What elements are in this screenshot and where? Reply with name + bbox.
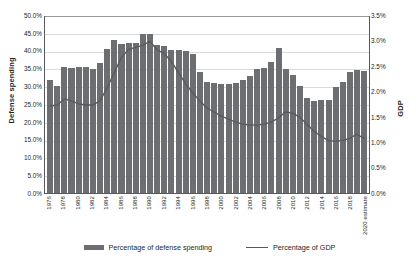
x-axis-tick-label: 1988 [132, 196, 138, 210]
x-axis-tick-label: 1980 [75, 196, 81, 210]
x-axis-tick-label: 1976 [46, 196, 52, 210]
x-axis-tick-slot [53, 196, 59, 238]
legend-line-swatch-icon [246, 247, 268, 248]
y-axis-right-tick: 2.5% [371, 64, 397, 70]
x-axis-tick-label: 2020 estimate [362, 196, 368, 235]
x-axis-tick-slot: 2004 [247, 196, 253, 238]
y-axis-left-tick: 15.0% [8, 137, 42, 143]
x-axis-tick-slot [197, 196, 203, 238]
y-axis-right-tick: 3.0% [371, 38, 397, 44]
y-axis-right-tick: 1.0% [371, 140, 397, 146]
x-axis-tick-slot: 2012 [304, 196, 310, 238]
y-axis-right-tick: 0.5% [371, 165, 397, 171]
x-axis-tick-label: 2008 [276, 196, 282, 210]
x-axis-tick-label: 2012 [304, 196, 310, 210]
x-axis-tick-slot: 1986 [118, 196, 124, 238]
x-axis-tick-labels: 1976197819801982198419861988199019921994… [44, 196, 370, 238]
x-axis-tick-label: 2010 [290, 196, 296, 210]
y-axis-left-tick: 30.0% [8, 84, 42, 90]
line-series-percentage-of-gdp [45, 16, 369, 193]
x-axis-tick-label: 2000 [218, 196, 224, 210]
x-axis-tick-slot [68, 196, 74, 238]
x-axis-tick-slot [311, 196, 317, 238]
y-axis-left-tick: 5.0% [8, 173, 42, 179]
x-axis-tick-slot: 1994 [175, 196, 181, 238]
x-axis-tick-label: 2004 [247, 196, 253, 210]
x-axis-tick-slot [96, 196, 102, 238]
x-axis-tick-slot: 2018 [347, 196, 353, 238]
legend-label: Percentage of GDP [273, 243, 335, 252]
legend-label: Percentage of defense spending [109, 243, 213, 252]
x-axis-tick-slot: 1996 [189, 196, 195, 238]
x-axis-tick-slot: 2006 [261, 196, 267, 238]
y-axis-left-tick: 0.0% [8, 191, 42, 197]
x-axis-tick-slot: 2010 [290, 196, 296, 238]
x-axis-tick-label: 1984 [103, 196, 109, 210]
chart-container: Defense spending GDP 0.0%5.0%10.0%15.0%2… [0, 0, 419, 265]
x-axis-tick-slot: 1998 [204, 196, 210, 238]
x-axis-tick-label: 2016 [333, 196, 339, 210]
x-axis-tick-slot: 2000 [218, 196, 224, 238]
y-axis-left-tick: 20.0% [8, 120, 42, 126]
legend-bar-swatch-icon [84, 245, 104, 250]
x-axis-tick-slot: 2016 [333, 196, 339, 238]
x-axis-tick-slot [82, 196, 88, 238]
x-axis-tick-slot [168, 196, 174, 238]
x-axis-tick-label: 1978 [60, 196, 66, 210]
y-axis-left-tick: 35.0% [8, 66, 42, 72]
legend-item[interactable]: Percentage of GDP [246, 243, 335, 252]
x-axis-tick-slot: 1984 [103, 196, 109, 238]
x-axis-tick-slot: 1992 [161, 196, 167, 238]
x-axis-tick-label: 2014 [319, 196, 325, 210]
y-axis-right-tick: 0.0% [371, 191, 397, 197]
x-axis-tick-slot [326, 196, 332, 238]
x-axis-tick-slot [225, 196, 231, 238]
x-axis-tick-slot [125, 196, 131, 238]
x-axis-tick-slot [182, 196, 188, 238]
x-axis-tick-slot: 1976 [46, 196, 52, 238]
legend-item[interactable]: Percentage of defense spending [84, 243, 213, 252]
y-axis-left-tick: 25.0% [8, 102, 42, 108]
x-axis-tick-slot [283, 196, 289, 238]
x-axis-tick-label: 1986 [118, 196, 124, 210]
x-axis-tick-slot: 1980 [75, 196, 81, 238]
x-axis-tick-label: 1990 [146, 196, 152, 210]
y-axis-left-tick: 50.0% [8, 13, 42, 19]
x-axis-tick-slot [154, 196, 160, 238]
x-axis-tick-slot [240, 196, 246, 238]
x-axis-tick-slot: 1990 [146, 196, 152, 238]
x-axis-tick-slot: 2002 [233, 196, 239, 238]
x-axis-tick-slot [297, 196, 303, 238]
x-axis-tick-slot [268, 196, 274, 238]
y-axis-left-tick: 45.0% [8, 31, 42, 37]
y-axis-left-ticks: 0.0%5.0%10.0%15.0%20.0%25.0%30.0%35.0%40… [8, 0, 42, 265]
x-axis-tick-slot [139, 196, 145, 238]
x-axis-tick-slot: 1982 [89, 196, 95, 238]
x-axis-tick-label: 1992 [161, 196, 167, 210]
x-axis-tick-slot: 1988 [132, 196, 138, 238]
y-axis-left-tick: 10.0% [8, 155, 42, 161]
x-axis-tick-slot: 2020 estimate [362, 196, 368, 238]
x-axis-tick-label: 2006 [261, 196, 267, 210]
y-axis-right-tick: 2.0% [371, 89, 397, 95]
y-axis-right-tick: 3.5% [371, 13, 397, 19]
x-axis-tick-slot: 2014 [319, 196, 325, 238]
x-axis-tick-slot [111, 196, 117, 238]
chart-legend: Percentage of defense spendingPercentage… [0, 243, 419, 252]
x-axis-tick-label: 2002 [233, 196, 239, 210]
x-axis-tick-slot [340, 196, 346, 238]
x-axis-tick-label: 1994 [175, 196, 181, 210]
x-axis-tick-slot: 2008 [276, 196, 282, 238]
x-axis-tick-slot: 1978 [60, 196, 66, 238]
x-axis-tick-slot [211, 196, 217, 238]
y-axis-left-tick: 40.0% [8, 48, 42, 54]
x-axis-tick-slot [254, 196, 260, 238]
x-axis-tick-label: 1998 [204, 196, 210, 210]
x-axis-tick-label: 1982 [89, 196, 95, 210]
y-axis-right-tick: 1.5% [371, 115, 397, 121]
plot-area [44, 16, 370, 194]
y-axis-right-ticks: 0.0%0.5%1.0%1.5%2.0%2.5%3.0%3.5% [371, 0, 397, 265]
x-axis-tick-label: 1996 [190, 196, 196, 210]
x-axis-tick-slot [354, 196, 360, 238]
x-axis-tick-label: 2018 [347, 196, 353, 210]
